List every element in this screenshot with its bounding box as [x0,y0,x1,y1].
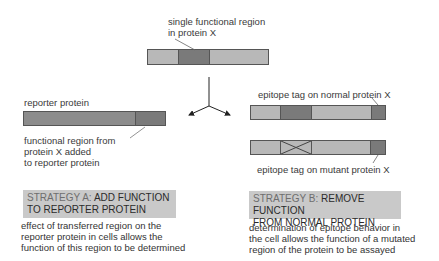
connector-lines [0,0,439,261]
